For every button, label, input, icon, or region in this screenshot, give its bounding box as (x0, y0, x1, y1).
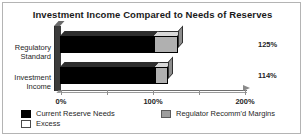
x-axis-tick-200 (245, 90, 246, 95)
data-label-regulatory-standard: 125% (258, 40, 277, 49)
legend-swatch-white-icon (21, 120, 31, 128)
x-axis-tick-0 (61, 90, 62, 95)
category-label-line-1: Investment (0, 73, 51, 82)
legend-swatch-black-icon (21, 110, 31, 118)
x-axis-line-depth (61, 92, 247, 93)
bar-segment-regulator-margins[interactable] (154, 36, 178, 53)
category-label-line-2: Income (0, 82, 51, 91)
bar-regulatory-standard[interactable] (60, 36, 178, 53)
x-axis-tick-150 (199, 90, 200, 95)
legend-item-excess[interactable]: Excess (21, 119, 115, 128)
chart-legend: Current Reserve Needs Excess Regulator R… (3, 107, 302, 135)
legend-group-right: Regulator Recomm'd Margins (161, 109, 275, 119)
bar-side-face (178, 25, 183, 48)
x-axis-label-100: 100% (133, 97, 173, 106)
chart-frame: Investment Income Compared to Needs of R… (2, 2, 301, 134)
legend-label-current-reserve-needs: Current Reserve Needs (36, 109, 115, 118)
bar-segment-current-reserve-needs[interactable] (60, 36, 155, 53)
x-axis-tick-50 (107, 90, 108, 95)
bar-segment-regulator-margins[interactable] (155, 67, 168, 84)
category-label-line-2: Standard (0, 52, 51, 61)
category-label-regulatory-standard: Regulatory Standard (0, 43, 51, 61)
bar-side-face (168, 56, 173, 79)
bar-investment-income[interactable] (60, 67, 168, 84)
legend-label-regulator-margins: Regulator Recomm'd Margins (176, 109, 275, 118)
category-label-investment-income: Investment Income (0, 73, 51, 91)
x-axis-tick-100 (153, 90, 154, 95)
x-axis-label-200: 200% (225, 97, 265, 106)
legend-item-current-reserve-needs[interactable]: Current Reserve Needs (21, 109, 115, 118)
legend-label-excess: Excess (36, 119, 60, 128)
legend-swatch-gray-icon (161, 110, 171, 118)
category-label-line-1: Regulatory (0, 43, 51, 52)
bar-segment-current-reserve-needs[interactable] (60, 67, 156, 84)
legend-item-regulator-margins[interactable]: Regulator Recomm'd Margins (161, 109, 275, 118)
legend-group-left: Current Reserve Needs Excess (21, 109, 115, 129)
x-axis-label-0: 0% (41, 97, 81, 106)
data-label-investment-income: 114% (258, 71, 277, 80)
